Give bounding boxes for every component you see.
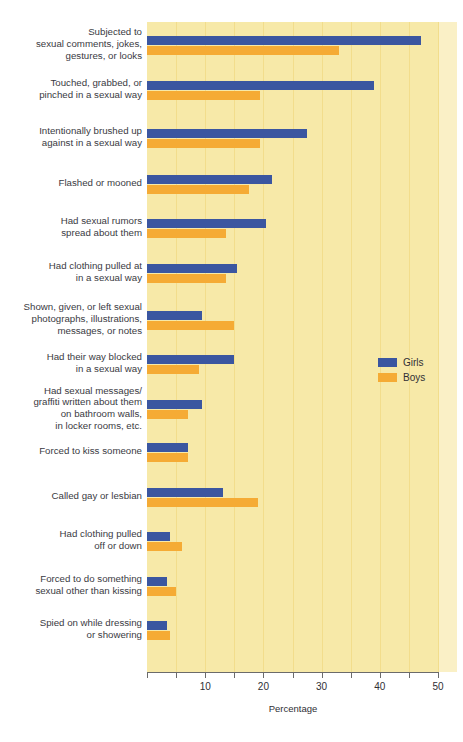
bar-group <box>0 488 463 507</box>
x-tick-label-20: 20 <box>243 681 283 692</box>
bar-group <box>0 36 463 55</box>
bar-group <box>0 81 463 100</box>
bar-boys[interactable] <box>147 542 182 551</box>
x-tick-20 <box>263 672 264 678</box>
gridline-15 <box>234 22 235 672</box>
gridline-20 <box>263 22 264 672</box>
legend-item-girls[interactable]: Girls <box>378 357 425 368</box>
x-tick-40 <box>380 672 381 678</box>
x-tick-label-50: 50 <box>418 681 458 692</box>
bar-group <box>0 175 463 194</box>
bar-boys[interactable] <box>147 321 234 330</box>
x-tick-10 <box>205 672 206 678</box>
bar-group <box>0 577 463 596</box>
bar-boys[interactable] <box>147 631 170 640</box>
x-tick-label-30: 30 <box>302 681 342 692</box>
category-label-line: Had sexual messages/ <box>2 385 142 397</box>
bar-boys[interactable] <box>147 185 249 194</box>
legend-swatch-girls <box>378 358 397 367</box>
bar-girls[interactable] <box>147 488 223 497</box>
bar-girls[interactable] <box>147 443 188 452</box>
x-tick-label-40: 40 <box>360 681 400 692</box>
legend-label-girls: Girls <box>403 357 424 368</box>
bar-girls[interactable] <box>147 621 167 630</box>
bar-girls[interactable] <box>147 219 266 228</box>
bar-boys[interactable] <box>147 498 258 507</box>
bar-boys[interactable] <box>147 453 188 462</box>
gridline-45 <box>409 22 410 672</box>
gridline-5 <box>176 22 177 672</box>
x-tick-35 <box>351 672 352 678</box>
legend-item-boys[interactable]: Boys <box>378 372 425 383</box>
bar-boys[interactable] <box>147 365 199 374</box>
x-tick-45 <box>409 672 410 678</box>
x-tick-label-10: 10 <box>185 681 225 692</box>
gridline-40 <box>380 22 381 672</box>
gridline-30 <box>322 22 323 672</box>
bar-group <box>0 129 463 148</box>
bar-boys[interactable] <box>147 91 260 100</box>
bar-girls[interactable] <box>147 355 234 364</box>
plot-area-edge <box>439 22 457 672</box>
x-tick-30 <box>322 672 323 678</box>
plot-area <box>147 22 439 672</box>
bar-girls[interactable] <box>147 264 237 273</box>
legend: Girls Boys <box>378 357 425 387</box>
legend-swatch-boys <box>378 373 397 382</box>
legend-label-boys: Boys <box>403 372 425 383</box>
bar-boys[interactable] <box>147 46 339 55</box>
bar-girls[interactable] <box>147 81 374 90</box>
category-label-line: in locker rooms, etc. <box>2 420 142 432</box>
gridline-10 <box>205 22 206 672</box>
bar-group <box>0 443 463 462</box>
bar-group <box>0 621 463 640</box>
bar-girls[interactable] <box>147 400 202 409</box>
bar-group <box>0 264 463 283</box>
bar-boys[interactable] <box>147 274 226 283</box>
bar-girls[interactable] <box>147 36 421 45</box>
bar-girls[interactable] <box>147 129 307 138</box>
x-axis-title: Percentage <box>147 703 439 714</box>
x-tick-5 <box>176 672 177 678</box>
gridline-25 <box>293 22 294 672</box>
bar-boys[interactable] <box>147 410 188 419</box>
bar-group <box>0 311 463 330</box>
bar-boys[interactable] <box>147 587 176 596</box>
bar-chart: Subjected tosexual comments, jokes,gestu… <box>0 0 463 742</box>
x-tick-25 <box>293 672 294 678</box>
bar-girls[interactable] <box>147 311 202 320</box>
x-tick-0 <box>147 672 148 678</box>
bar-girls[interactable] <box>147 532 170 541</box>
bar-boys[interactable] <box>147 139 260 148</box>
bar-girls[interactable] <box>147 175 272 184</box>
bar-group <box>0 219 463 238</box>
bar-group <box>0 532 463 551</box>
x-tick-15 <box>234 672 235 678</box>
gridline-35 <box>351 22 352 672</box>
bar-group <box>0 400 463 419</box>
x-tick-50 <box>438 672 439 678</box>
bar-girls[interactable] <box>147 577 167 586</box>
bar-boys[interactable] <box>147 229 226 238</box>
